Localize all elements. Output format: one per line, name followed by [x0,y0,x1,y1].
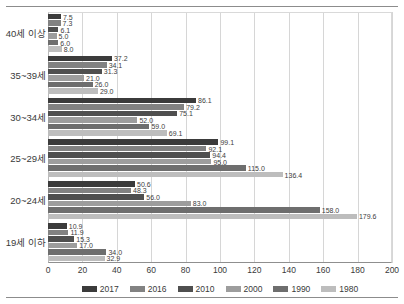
bar-row: 29.0 [48,88,392,94]
legend-item-2010[interactable]: 2010 [178,284,215,294]
bar[interactable] [48,27,58,33]
legend-label: 2000 [244,284,263,294]
bar[interactable] [48,124,149,130]
bar[interactable] [48,172,283,178]
bar-row: 15.3 [48,236,392,242]
bar[interactable] [48,104,184,110]
legend-item-2017[interactable]: 2017 [82,284,119,294]
bar-row: 83.0 [48,201,392,207]
category-group: 19세 이하10.911.915.317.034.032.9 [48,221,392,263]
bar[interactable] [48,146,206,152]
bar[interactable] [48,130,167,136]
bar[interactable] [48,88,98,94]
bar-row: 50.6 [48,181,392,187]
bar-row: 48.3 [48,188,392,194]
gridline [392,12,393,263]
bar-row: 10.9 [48,223,392,229]
bar[interactable] [48,75,84,81]
bar-row: 7.3 [48,20,392,26]
bar-row: 99.1 [48,139,392,145]
bar-row: 21.0 [48,75,392,81]
bar[interactable] [48,56,112,62]
legend-swatch [273,286,288,292]
bar-row: 34.1 [48,62,392,68]
bar[interactable] [48,98,196,104]
x-axis-tick-labels: 020406080100120140160180200 [48,265,392,279]
category-label: 20~24세 [1,193,46,207]
bar-row: 32.9 [48,256,392,262]
x-tick-label: 180 [351,265,365,275]
bar-row: 92.1 [48,146,392,152]
x-tick-label: 200 [385,265,399,275]
bar-value-label: 179.6 [357,213,377,220]
chart-legend: 201720162010200019901980 [48,282,392,296]
bar-row: 6.0 [48,40,392,46]
category-label: 30~34세 [1,110,46,124]
bar-value-label: 29.0 [98,87,114,94]
legend-item-2000[interactable]: 2000 [226,284,263,294]
x-tick-label: 160 [316,265,330,275]
bar[interactable] [48,20,61,26]
bar[interactable] [48,214,357,220]
x-tick-label: 20 [78,265,87,275]
category-label: 40세 이상 [1,26,46,40]
legend-swatch [82,286,97,292]
bar[interactable] [48,40,58,46]
bar[interactable] [48,111,177,117]
bar[interactable] [48,236,74,242]
bar-value-label: 32.9 [105,255,121,262]
bar[interactable] [48,159,211,165]
bar-value-label: 8.0 [62,46,74,53]
bar[interactable] [48,117,137,123]
bar[interactable] [48,230,68,236]
bar-row: 75.1 [48,111,392,117]
bar-value-label: 31.3 [102,68,118,75]
bar[interactable] [48,207,320,213]
bar[interactable] [48,69,102,75]
bar-row: 26.0 [48,82,392,88]
bar-value-label: 56.0 [144,193,160,200]
category-group: 20~24세50.648.356.083.0158.0179.6 [48,179,392,221]
bar-value-label: 158.0 [320,206,340,213]
bar[interactable] [48,201,191,207]
legend-swatch [178,286,193,292]
bar-row: 56.0 [48,194,392,200]
legend-label: 2017 [100,284,119,294]
legend-label: 1980 [339,284,358,294]
bar-row: 17.0 [48,243,392,249]
bar[interactable] [48,181,135,187]
bar-row: 115.0 [48,165,392,171]
legend-swatch [130,286,145,292]
bar[interactable] [48,194,144,200]
bar-value-label: 75.1 [177,110,193,117]
bar[interactable] [48,33,57,39]
bar[interactable] [48,152,210,158]
legend-item-2016[interactable]: 2016 [130,284,167,294]
bar-value-label: 59.0 [149,123,165,130]
bar-row: 6.1 [48,27,392,33]
bar-row: 79.2 [48,104,392,110]
bar[interactable] [48,256,105,262]
x-tick-label: 40 [112,265,121,275]
bar[interactable] [48,223,67,229]
x-tick-label: 140 [282,265,296,275]
legend-item-1990[interactable]: 1990 [273,284,310,294]
bar-value-label: 136.4 [283,171,303,178]
category-label: 35~39세 [1,68,46,82]
bar[interactable] [48,165,246,171]
bar-value-label: 95.0 [211,158,227,165]
bar[interactable] [48,14,61,20]
bar[interactable] [48,46,62,52]
bar[interactable] [48,188,131,194]
bar[interactable] [48,249,106,255]
legend-swatch [226,286,241,292]
top-divider [6,6,398,7]
legend-item-1980[interactable]: 1980 [321,284,358,294]
bar-row: 52.0 [48,117,392,123]
bar[interactable] [48,139,218,145]
legend-label: 1990 [291,284,310,294]
bar[interactable] [48,82,93,88]
x-tick-label: 0 [46,265,51,275]
bar[interactable] [48,62,107,68]
bar[interactable] [48,243,77,249]
